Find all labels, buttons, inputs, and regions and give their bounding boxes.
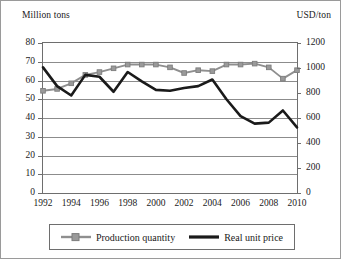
series-marker bbox=[168, 65, 173, 70]
series-marker bbox=[154, 62, 159, 67]
series-marker bbox=[111, 66, 116, 71]
left-axis-tickmark bbox=[38, 81, 42, 82]
left-axis-tick: 20 bbox=[9, 150, 35, 160]
series-marker bbox=[97, 70, 102, 75]
right-axis-tickmark bbox=[297, 68, 301, 69]
left-axis-tickmark bbox=[38, 43, 42, 44]
price-line-swatch-icon bbox=[189, 232, 219, 242]
production-line-swatch-icon bbox=[61, 232, 91, 242]
right-axis-tick: 0 bbox=[306, 187, 340, 197]
series-marker bbox=[196, 68, 201, 73]
left-axis-tickmark bbox=[38, 156, 42, 157]
right-axis-tickmark bbox=[297, 93, 301, 94]
x-axis-tick: 2010 bbox=[282, 198, 312, 208]
x-axis-tick: 2004 bbox=[197, 198, 227, 208]
left-axis-tick: 50 bbox=[9, 93, 35, 103]
chart-legend: Production quantity Real unit price bbox=[49, 224, 295, 250]
series-marker bbox=[281, 76, 286, 81]
right-axis-tickmark bbox=[297, 168, 301, 169]
right-axis-tick: 200 bbox=[306, 162, 340, 172]
series-marker bbox=[266, 65, 271, 70]
left-axis-tick: 60 bbox=[9, 75, 35, 85]
right-axis-tick: 800 bbox=[306, 87, 340, 97]
series-marker bbox=[69, 81, 74, 86]
series-marker bbox=[252, 61, 257, 66]
left-axis-tickmark bbox=[38, 193, 42, 194]
x-axis-tick: 2006 bbox=[226, 198, 256, 208]
left-axis-tickmark bbox=[38, 118, 42, 119]
left-axis-tick: 40 bbox=[9, 112, 35, 122]
left-axis-tick: 10 bbox=[9, 168, 35, 178]
right-axis-title: USD/ton bbox=[297, 10, 331, 20]
series-marker bbox=[139, 62, 144, 67]
series-marker bbox=[224, 62, 229, 67]
left-axis-title: Million tons bbox=[22, 10, 70, 20]
left-axis-tick: 70 bbox=[9, 56, 35, 66]
left-axis-tickmark bbox=[38, 62, 42, 63]
left-axis-tickmark bbox=[38, 174, 42, 175]
x-axis-tick: 2008 bbox=[254, 198, 284, 208]
right-axis-tick: 600 bbox=[306, 112, 340, 122]
x-axis-tick: 1998 bbox=[113, 198, 143, 208]
x-axis-tick: 2000 bbox=[141, 198, 171, 208]
series-marker bbox=[210, 69, 215, 74]
right-axis-tick: 400 bbox=[306, 137, 340, 147]
x-axis-tick: 2002 bbox=[169, 198, 199, 208]
left-axis-tickmark bbox=[38, 99, 42, 100]
series-marker bbox=[125, 62, 130, 67]
series-marker bbox=[41, 89, 46, 94]
data-series-layer bbox=[43, 43, 297, 193]
x-axis-tick: 1992 bbox=[28, 198, 58, 208]
plot-area bbox=[42, 42, 298, 194]
left-axis-tick: 80 bbox=[9, 37, 35, 47]
series-marker bbox=[238, 62, 243, 67]
left-axis-tick: 30 bbox=[9, 131, 35, 141]
legend-entry-real-unit-price: Real unit price bbox=[189, 232, 283, 243]
right-axis-tick: 1200 bbox=[306, 37, 340, 47]
right-axis-tickmark bbox=[297, 193, 301, 194]
right-axis-tickmark bbox=[297, 43, 301, 44]
x-axis-tick: 1994 bbox=[56, 198, 86, 208]
legend-label-production-quantity: Production quantity bbox=[96, 232, 175, 243]
series-marker bbox=[182, 71, 187, 76]
legend-entry-production-quantity: Production quantity bbox=[61, 232, 175, 243]
right-axis-tick: 1000 bbox=[306, 62, 340, 72]
x-axis-tick: 1996 bbox=[84, 198, 114, 208]
legend-label-real-unit-price: Real unit price bbox=[224, 232, 283, 243]
chart-figure: Million tons USD/ton 01020304050607080 0… bbox=[0, 0, 341, 259]
right-axis-tickmark bbox=[297, 118, 301, 119]
left-axis-tickmark bbox=[38, 137, 42, 138]
right-axis-tickmark bbox=[297, 143, 301, 144]
left-axis-tick: 0 bbox=[9, 187, 35, 197]
